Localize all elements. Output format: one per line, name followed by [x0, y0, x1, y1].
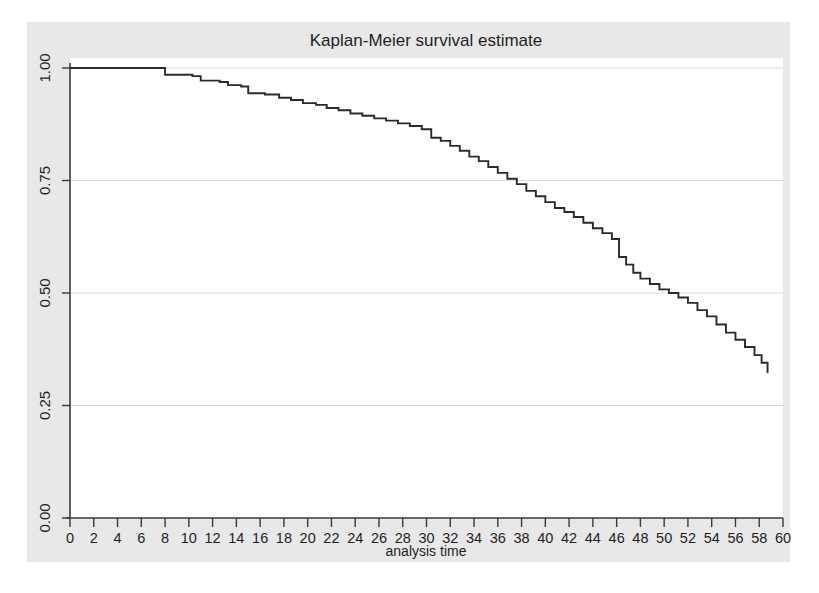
x-tick-label: 46: [609, 530, 625, 546]
x-axis-title: analysis time: [386, 543, 467, 559]
plot-area: [70, 58, 783, 518]
chart-title: Kaplan-Meier survival estimate: [310, 31, 542, 50]
x-tick-label: 4: [113, 530, 121, 546]
x-tick-label: 0: [66, 530, 74, 546]
x-tick-label: 44: [585, 530, 601, 546]
x-tick-label: 22: [323, 530, 339, 546]
y-tick-label: 0.25: [36, 391, 53, 420]
y-tick-label: 1.00: [36, 53, 53, 82]
x-tick-label: 14: [228, 530, 244, 546]
x-tick-label: 42: [561, 530, 577, 546]
x-tick-label: 6: [137, 530, 145, 546]
y-axis-tick-labels: 1.00 0.75 0.50 0.25 0.00: [36, 53, 53, 532]
x-tick-label: 50: [656, 530, 672, 546]
x-tick-label: 48: [632, 530, 648, 546]
x-tick-label: 40: [537, 530, 553, 546]
y-tick-label: 0.75: [36, 166, 53, 195]
x-tick-label: 36: [490, 530, 506, 546]
x-tick-label: 18: [276, 530, 292, 546]
x-tick-label: 20: [300, 530, 316, 546]
y-tick-label: 0.00: [36, 503, 53, 532]
x-tick-label: 54: [704, 530, 720, 546]
x-tick-label: 2: [90, 530, 98, 546]
kaplan-meier-chart: 1.00 0.75 0.50 0.25 0.00 024681012141618…: [0, 0, 819, 593]
x-tick-label: 60: [775, 530, 791, 546]
x-tick-label: 34: [466, 530, 482, 546]
y-axis-ticks: [62, 68, 70, 518]
x-axis-ticks-and-labels: 0246810121416182022242628303234363840424…: [66, 518, 791, 546]
x-tick-label: 56: [727, 530, 743, 546]
x-tick-label: 8: [161, 530, 169, 546]
x-tick-label: 16: [252, 530, 268, 546]
x-tick-label: 10: [181, 530, 197, 546]
x-tick-label: 12: [205, 530, 221, 546]
x-tick-label: 58: [751, 530, 767, 546]
y-tick-label: 0.50: [36, 278, 53, 307]
screenshot-page: 1.00 0.75 0.50 0.25 0.00 024681012141618…: [0, 0, 819, 593]
x-tick-label: 38: [513, 530, 529, 546]
x-tick-label: 52: [680, 530, 696, 546]
x-tick-label: 24: [347, 530, 363, 546]
